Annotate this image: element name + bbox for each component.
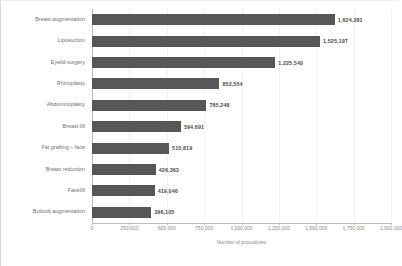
x-tick-label: 500,000: [158, 225, 176, 231]
x-axis-ticks: 0250,000500,000750,0001,000,0001,250,000…: [92, 225, 391, 237]
bar-value-label: 765,248: [209, 102, 229, 108]
x-tick-label: 1,250,000: [268, 225, 290, 231]
bar-value-label: 594,691: [184, 124, 204, 130]
x-tick-label: 0: [91, 225, 94, 231]
bar-value-label: 1,624,281: [338, 17, 363, 23]
x-tick-label: 2,000,000: [380, 225, 402, 231]
bar-row: 1,525,197: [92, 36, 391, 47]
bar-row: 1,624,281: [92, 14, 391, 25]
category-label: Liposuction: [58, 38, 85, 43]
category-label: Breast lift: [63, 124, 85, 129]
bar-row: 419,046: [92, 185, 391, 196]
bar: [92, 78, 219, 89]
bar-row: 1,225,540: [92, 57, 391, 68]
category-label: Breast augmentation: [35, 17, 85, 22]
bar-row: 594,691: [92, 121, 391, 132]
bar-value-label: 1,525,197: [323, 38, 348, 44]
bar-value-label: 852,554: [222, 81, 242, 87]
category-label: Breast reduction: [46, 167, 85, 172]
bar-value-label: 396,105: [154, 209, 174, 215]
category-label: Facelift: [68, 188, 85, 193]
bar: [92, 121, 181, 132]
bar-series: 1,624,2811,525,1971,225,540852,554765,24…: [92, 9, 391, 223]
bar: [92, 57, 275, 68]
bar-value-label: 426,363: [159, 167, 179, 173]
bar-row: 765,248: [92, 100, 391, 111]
bar: [92, 100, 206, 111]
bar: [92, 185, 155, 196]
bar-row: 515,819: [92, 143, 391, 154]
bar: [92, 164, 156, 175]
category-axis: Breast augmentationLiposuctionEyelid sur…: [1, 9, 89, 223]
category-label: Eyelid surgery: [51, 60, 85, 65]
bar-value-label: 419,046: [158, 188, 178, 194]
bar-row: 426,363: [92, 164, 391, 175]
category-label: Buttock augmentation: [33, 209, 85, 214]
bar: [92, 36, 320, 47]
x-tick-label: 250,000: [120, 225, 138, 231]
x-tick-label: 1,750,000: [343, 225, 365, 231]
bar-row: 396,105: [92, 207, 391, 218]
category-label: Abdominoplasty: [47, 102, 85, 107]
category-label: Fat grafting – face: [42, 145, 85, 150]
category-label: Rhinoplasty: [57, 81, 85, 86]
bar: [92, 14, 335, 25]
gridline: [391, 9, 392, 223]
bar-row: 852,554: [92, 78, 391, 89]
x-tick-label: 1,000,000: [230, 225, 252, 231]
x-axis-title: Number of procedures: [92, 239, 391, 245]
bar: [92, 207, 151, 218]
bar-value-label: 515,819: [172, 145, 192, 151]
bar: [92, 143, 169, 154]
x-tick-label: 1,500,000: [305, 225, 327, 231]
plot-area: 1,624,2811,525,1971,225,540852,554765,24…: [92, 9, 391, 223]
bar-value-label: 1,225,540: [278, 60, 303, 66]
x-tick-label: 750,000: [195, 225, 213, 231]
